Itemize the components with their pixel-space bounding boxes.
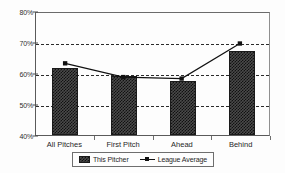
plot-area: [35, 12, 270, 136]
x-tick-mark: [270, 136, 271, 140]
chart-legend: This Pitcher League Average: [72, 152, 214, 167]
x-tick-label-behind: Behind: [229, 140, 252, 149]
y-tick-mark: [33, 12, 38, 13]
x-tick-mark: [94, 136, 95, 140]
x-tick-label-first-pitch: First Pitch: [106, 140, 139, 149]
x-tick-mark: [153, 136, 154, 140]
y-tick-label: 60%: [0, 71, 33, 78]
y-tick-label: 50%: [0, 102, 33, 109]
legend-item-this-pitcher: This Pitcher: [79, 156, 129, 163]
legend-label-league-average: League Average: [158, 156, 207, 163]
y-tick-mark: [33, 74, 38, 75]
x-tick-label-ahead: Ahead: [171, 140, 193, 149]
y-tick-label: 40%: [0, 133, 33, 140]
x-tick-label-all-pitches: All Pitches: [47, 140, 82, 149]
line-marker-first-pitch: [121, 75, 125, 79]
y-tick-label: 80%: [0, 9, 33, 16]
line-marker-all-pitches: [63, 61, 67, 65]
y-tick-label: 70%: [0, 40, 33, 47]
hatched-bar-swatch-icon: [79, 156, 90, 163]
chart-container: 40%50%60%70%80% All PitchesFirst PitchAh…: [0, 0, 285, 173]
line-marker-ahead: [179, 76, 183, 80]
league-average-line-series: [36, 13, 269, 135]
y-tick-mark: [33, 43, 38, 44]
line-marker-swatch-icon: [140, 156, 155, 163]
x-tick-mark: [211, 136, 212, 140]
x-axis: All PitchesFirst PitchAheadBehind: [35, 138, 270, 152]
legend-item-league-average: League Average: [140, 156, 207, 163]
line-marker-behind: [238, 41, 242, 45]
legend-label-this-pitcher: This Pitcher: [93, 156, 129, 163]
y-tick-mark: [33, 136, 38, 137]
line-path: [65, 44, 240, 79]
y-tick-mark: [33, 105, 38, 106]
plot-inner: [36, 13, 269, 135]
